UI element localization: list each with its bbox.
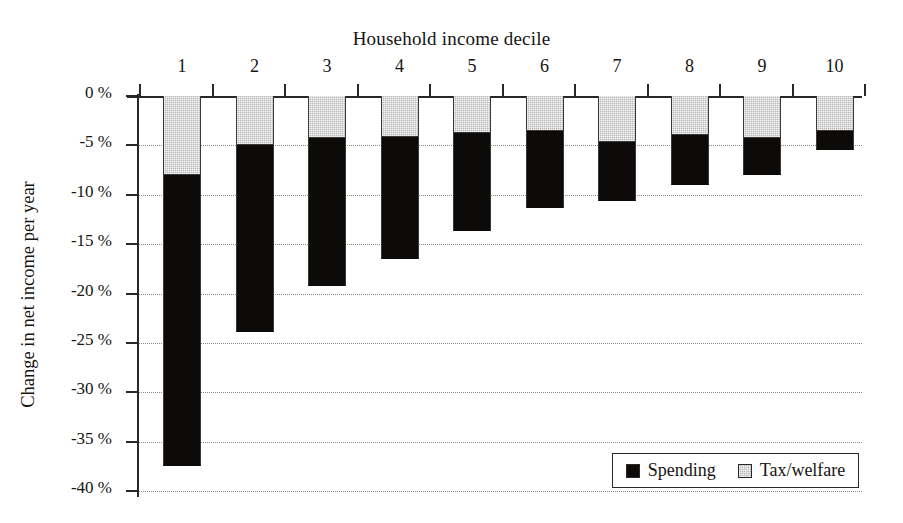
x-axis-tick-label: 1 [178, 56, 187, 77]
bar-group[interactable] [743, 96, 781, 491]
y-axis-tick: -10 % [126, 194, 137, 196]
y-axis-tick: -5 % [126, 144, 137, 146]
y-axis-tick-label: -35 % [71, 429, 112, 449]
y-axis-tick: -30 % [126, 391, 137, 393]
y-axis-tick-label: -25 % [71, 330, 112, 350]
x-axis-tick-label: 8 [685, 56, 694, 77]
bar-segment-tax-welfare[interactable] [743, 96, 781, 138]
bar-group[interactable] [381, 96, 419, 491]
y-axis-tick-label: -20 % [71, 281, 112, 301]
bar-segment-spending[interactable] [598, 142, 636, 200]
x-axis-tick-label: 10 [826, 56, 844, 77]
black-square-icon [626, 464, 640, 478]
bar-group[interactable] [163, 96, 201, 491]
bar-segment-tax-welfare[interactable] [816, 96, 854, 131]
x-axis-tick-label: 7 [613, 56, 622, 77]
bar-segment-tax-welfare[interactable] [381, 96, 419, 137]
bar-segment-tax-welfare[interactable] [526, 96, 564, 131]
legend-item-label: Tax/welfare [760, 460, 846, 481]
y-axis-tick-label: -30 % [71, 380, 112, 400]
bar-segment-tax-welfare[interactable] [236, 96, 274, 145]
legend-item[interactable]: Spending [626, 460, 716, 481]
x-axis-tick [792, 84, 794, 96]
bar-segment-spending[interactable] [743, 138, 781, 175]
bar-segment-tax-welfare[interactable] [671, 96, 709, 135]
bar-group[interactable] [308, 96, 346, 491]
bar-segment-spending[interactable] [236, 145, 274, 332]
y-axis-bottom-cap [137, 487, 139, 497]
bar-group[interactable] [526, 96, 564, 491]
y-axis-tick-label: 0 % [85, 83, 112, 103]
x-axis-tick [139, 84, 141, 96]
bar-segment-spending[interactable] [453, 133, 491, 232]
bar-segment-spending[interactable] [526, 131, 564, 208]
x-axis-tick [864, 84, 866, 96]
x-axis-tick-label: 3 [323, 56, 332, 77]
y-axis-tick-label: -40 % [71, 478, 112, 498]
x-axis-tick [284, 84, 286, 96]
gridline [139, 491, 862, 492]
bar-segment-tax-welfare[interactable] [308, 96, 346, 138]
plot-area: 0 %-5 %-10 %-15 %-20 %-25 %-30 %-35 %-40… [137, 96, 862, 491]
bar-segment-spending[interactable] [671, 135, 709, 185]
legend-item[interactable]: Tax/welfare [738, 460, 846, 481]
y-axis-tick-label: -5 % [79, 133, 112, 153]
bar-segment-spending[interactable] [381, 137, 419, 258]
bar-group[interactable] [598, 96, 636, 491]
x-axis-tick [357, 84, 359, 96]
chart-title: Household income decile [0, 28, 903, 50]
x-axis-tick-label: 6 [540, 56, 549, 77]
y-axis-title: Change in net income per year [18, 181, 39, 408]
y-axis-tick-label: -10 % [71, 182, 112, 202]
chart-legend: SpendingTax/welfare [612, 453, 859, 488]
bar-group[interactable] [453, 96, 491, 491]
x-axis-tick [719, 84, 721, 96]
y-axis-tick: -35 % [126, 441, 137, 443]
legend-item-label: Spending [648, 460, 716, 481]
x-axis-tick [502, 84, 504, 96]
bar-segment-tax-welfare[interactable] [163, 96, 201, 175]
y-axis-tick: 0 % [126, 95, 137, 97]
x-axis-tick-label: 5 [468, 56, 477, 77]
bar-group[interactable] [671, 96, 709, 491]
x-axis-tick [212, 84, 214, 96]
bar-segment-tax-welfare[interactable] [598, 96, 636, 142]
figure-stacked-bar-chart: Household income decile Change in net in… [0, 0, 903, 523]
bar-segment-spending[interactable] [163, 175, 201, 466]
x-axis-tick-label: 2 [250, 56, 259, 77]
x-axis-tick [574, 84, 576, 96]
bar-segment-spending[interactable] [816, 131, 854, 151]
bar-segment-tax-welfare[interactable] [453, 96, 491, 133]
y-axis-title-wrapper: Change in net income per year [14, 96, 42, 492]
bar-segment-spending[interactable] [308, 138, 346, 285]
gray-square-icon [738, 464, 752, 478]
bar-group[interactable] [816, 96, 854, 491]
bar-group[interactable] [236, 96, 274, 491]
x-axis-tick-label: 9 [758, 56, 767, 77]
y-axis-tick: -20 % [126, 293, 137, 295]
y-axis-tick: -25 % [126, 342, 137, 344]
x-axis-tick [429, 84, 431, 96]
y-axis-tick: -40 % [126, 490, 137, 492]
y-axis-tick-label: -15 % [71, 232, 112, 252]
x-axis-tick [647, 84, 649, 96]
y-axis-tick: -15 % [126, 243, 137, 245]
x-axis-tick-label: 4 [395, 56, 404, 77]
